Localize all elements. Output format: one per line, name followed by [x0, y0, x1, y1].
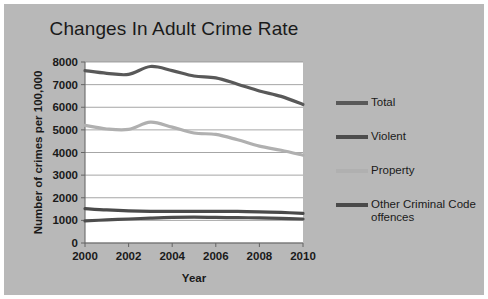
- x-axis-tick-label: 2000: [72, 250, 98, 262]
- y-axis-tick-label: 8000: [52, 56, 78, 68]
- y-axis-tick-label: 6000: [52, 101, 78, 113]
- y-axis-tick-label: 3000: [52, 169, 78, 181]
- y-axis-title: Number of crimes per 100,000: [32, 71, 44, 235]
- x-axis-tick-label: 2004: [159, 250, 185, 262]
- legend-item[interactable]: Other Criminal Code offences: [336, 198, 486, 224]
- x-axis-title: Year: [182, 272, 207, 284]
- legend-item[interactable]: Total: [336, 96, 486, 109]
- legend-item-label: Property: [371, 164, 414, 177]
- chart-card: Changes In Adult Crime Rate 010002000300…: [4, 4, 484, 295]
- y-axis-tick-label: 1000: [52, 214, 78, 226]
- x-axis-tick-label: 2008: [247, 250, 273, 262]
- x-axis-tick-label: 2002: [116, 250, 142, 262]
- legend-swatch-icon: [336, 135, 368, 139]
- x-axis-tick-label: 2006: [203, 250, 229, 262]
- y-axis-tick-label: 7000: [52, 79, 78, 91]
- legend-swatch-icon: [336, 169, 368, 173]
- legend-item-label: Total: [371, 96, 395, 109]
- y-axis-tick-label: 0: [72, 237, 78, 249]
- chart-legend: TotalViolentPropertyOther Criminal Code …: [336, 96, 486, 245]
- legend-swatch-icon: [336, 101, 368, 105]
- legend-item-label: Other Criminal Code offences: [371, 198, 476, 224]
- legend-item-label: Violent: [371, 130, 406, 143]
- x-axis-tick-label: 2010: [290, 250, 316, 262]
- legend-swatch-icon: [336, 203, 368, 207]
- legend-item[interactable]: Property: [336, 164, 486, 177]
- y-axis-tick-label: 2000: [52, 192, 78, 204]
- legend-item[interactable]: Violent: [336, 130, 486, 143]
- y-axis-tick-label: 5000: [52, 124, 78, 136]
- y-axis-tick-label: 4000: [52, 147, 78, 159]
